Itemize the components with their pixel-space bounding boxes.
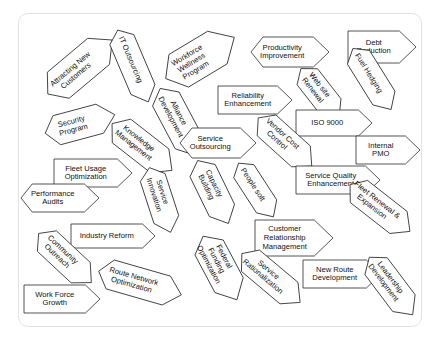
arrow-shape-industry-reform[interactable]: Industry Reform [71, 224, 155, 248]
arrow-outline [341, 174, 418, 243]
arrow-outline [296, 110, 372, 136]
arrow-outline [71, 224, 155, 248]
arrow-shape-performance-audits[interactable]: PerformanceAudits [21, 184, 99, 212]
arrow-shape-iso-9000[interactable]: ISO 9000 [296, 110, 372, 136]
arrow-outline [218, 86, 292, 114]
arrow-outline [54, 159, 132, 187]
arrow-shape-security-program[interactable]: SecurityProgram [41, 100, 118, 148]
arrow-outline [24, 285, 100, 313]
arrow-svg: Attracting NewCustomersIT OutsourcingWor… [0, 0, 440, 340]
arrow-shape-fleet-renewal-expansion[interactable]: Fleet Renewal &Expansion [341, 174, 418, 243]
arrow-shape-workforce-wellness[interactable]: WorkforceWellnessProgram [156, 21, 244, 95]
arrow-outline [106, 25, 160, 107]
arrow-outline [156, 21, 244, 95]
arrow-shape-it-outsourcing[interactable]: IT Outsourcing [106, 25, 160, 107]
arrow-shape-attracting-new-customers[interactable]: Attracting NewCustomers [37, 27, 123, 107]
arrow-shape-work-force-growth[interactable]: Work ForceGrowth [24, 285, 100, 313]
arrow-shape-route-network-optimization[interactable]: Route NetworkOptimization [95, 257, 186, 310]
arrow-outline [37, 27, 123, 107]
arrow-shape-service-outsourcing[interactable]: ServiceOutsourcing [180, 128, 256, 158]
arrow-outline [251, 37, 329, 67]
arrow-shape-productivity-improvement[interactable]: ProductivityImprovement [251, 37, 329, 67]
arrow-outline [95, 257, 186, 310]
arrow-outline [180, 128, 256, 158]
arrow-shape-internal-pmo[interactable]: InternalPMO [356, 136, 420, 164]
arrow-outline [185, 154, 241, 229]
arrow-outline [229, 157, 284, 224]
arrow-outline [21, 184, 99, 212]
arrow-outline [255, 220, 333, 256]
arrow-shape-fleet-usage-optimization[interactable]: Fleet UsageOptimization [54, 159, 132, 187]
arrow-shape-customer-relationship-management[interactable]: CustomerRelationshipManagement [255, 220, 333, 256]
arrow-shape-people-soft[interactable]: People soft [229, 157, 284, 224]
arrow-shape-capacity-building[interactable]: CapacityBuilding [185, 154, 241, 229]
arrow-shape-reliability-enhancement[interactable]: ReliabilityEnhancement [218, 86, 292, 114]
arrow-outline [41, 100, 118, 148]
arrow-layer: Attracting NewCustomersIT OutsourcingWor… [0, 0, 440, 340]
arrow-outline [356, 136, 420, 164]
diagram-canvas: Attracting NewCustomersIT OutsourcingWor… [0, 0, 440, 340]
